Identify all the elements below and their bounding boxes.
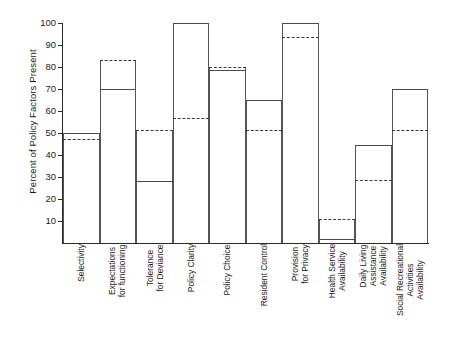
bar-dashed-value-line [63,139,100,140]
plot-area: 102030405060708090100 [63,23,428,243]
bar-group [282,23,319,243]
bar-solid-value-line [136,181,173,182]
x-axis-category-labels: SelectivityExpectations for functioningT… [63,244,428,343]
bar-solid-value-line [63,133,100,134]
x-axis-category-label: Policy Clarity [173,244,210,343]
y-axis-tick [58,89,62,90]
y-axis-tick-label: 70 [45,84,56,94]
bar-dashed-value-line [282,37,319,38]
y-axis-tick-label: 10 [45,216,56,226]
x-axis-category-label-text: Resident Control [259,244,269,306]
bar-outline [136,130,173,243]
y-axis-tick [58,155,62,156]
bar-outline [209,67,246,243]
y-axis-tick [58,177,62,178]
y-axis-tick-label: 100 [40,18,56,28]
bar-dashed-value-line [100,60,137,61]
y-axis-tick [58,199,62,200]
bar-outline [63,133,100,243]
bar-dashed-value-line [209,67,246,68]
bar-group [209,23,246,243]
bar-dashed-value-line [355,180,392,181]
bar-outline [355,145,392,243]
x-axis-category-label-text: Health Service Availability [327,244,347,298]
y-axis-tick [58,111,62,112]
y-axis-tick-label: 90 [45,40,56,50]
x-axis-category-label-text: Social Recreational Activities Availabil… [395,244,425,316]
bar-solid-value-line [173,23,210,24]
bar-group [63,23,100,243]
bar-group [392,23,429,243]
bar-solid-value-line [392,89,429,90]
y-axis-tick [58,23,62,24]
y-axis-tick-label: 20 [45,194,56,204]
bar-outline [100,60,137,243]
x-axis-category-label: Policy Choice [209,244,246,343]
bar-outline [173,23,210,243]
x-axis-category-label-text: Daily Living Assistance Availability [358,244,388,287]
x-axis-category-label-text: Tolerance for Deviance [144,244,164,291]
y-axis-tick-label: 80 [45,62,56,72]
x-axis-category-label-text: Selectivity [76,244,86,282]
bar-dashed-value-line [136,130,173,131]
x-axis-category-label: Selectivity [63,244,100,343]
x-axis-category-label: Resident Control [246,244,283,343]
bar-solid-value-line [100,89,137,90]
chart-root: Percent of Policy Factors Present 102030… [0,0,455,343]
x-axis-category-label: Expectations for functioning [100,244,137,343]
bar-group [136,23,173,243]
y-axis-tick [58,67,62,68]
y-axis-title: Percent of Policy Factors Present [27,12,38,232]
x-axis-category-label-text: Policy Clarity [186,244,196,292]
bar-solid-value-line [282,23,319,24]
x-axis-category-label: Daily Living Assistance Availability [355,244,392,343]
y-axis-tick [58,221,62,222]
bar-dashed-value-line [173,118,210,119]
bar-solid-value-line [319,239,356,240]
bar-dashed-value-line [392,130,429,131]
bar-outline [246,100,283,243]
bar-solid-value-line [209,70,246,71]
bar-group [100,23,137,243]
x-axis-category-label: Tolerance for Deviance [136,244,173,343]
bar-outline [282,23,319,243]
bar-group [319,23,356,243]
x-axis-category-label: Provision for Privacy [282,244,319,343]
bar-group [355,23,392,243]
bar-series-layer [63,23,428,243]
y-axis-tick-label: 30 [45,172,56,182]
bar-dashed-value-line [246,130,283,131]
x-axis-category-label-text: Policy Choice [222,244,232,295]
bar-dashed-value-line [319,219,356,220]
y-axis-tick-label: 60 [45,106,56,116]
y-axis-tick-label: 40 [45,150,56,160]
y-axis-tick-label: 50 [45,128,56,138]
x-axis-category-label-text: Provision for Privacy [290,244,310,284]
y-axis-tick [58,45,62,46]
bar-group [173,23,210,243]
x-axis-category-label-text: Expectations for functioning [108,244,128,297]
bar-solid-value-line [246,100,283,101]
bar-group [246,23,283,243]
x-axis-category-label: Social Recreational Activities Availabil… [392,244,429,343]
y-axis-tick [58,133,62,134]
bar-solid-value-line [355,145,392,146]
x-axis-category-label: Health Service Availability [319,244,356,343]
bar-outline [392,89,429,243]
